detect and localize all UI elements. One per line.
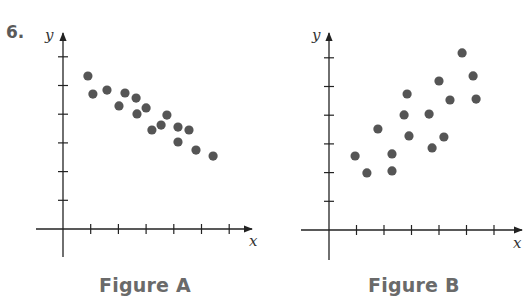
axis-ticks [324, 58, 494, 235]
data-point [400, 110, 409, 119]
data-point [173, 123, 182, 132]
x-axis-label: x [249, 232, 258, 250]
x-axis-label: x [513, 234, 522, 252]
data-point [373, 124, 382, 133]
data-point [387, 166, 396, 175]
y-axis-label: y [311, 26, 321, 44]
data-point [472, 95, 481, 104]
data-point [173, 137, 182, 146]
data-point [439, 132, 448, 141]
scatter-points [83, 71, 217, 160]
data-point [191, 146, 200, 155]
data-point [83, 71, 92, 80]
data-point [120, 88, 129, 97]
figures-canvas: y x y x [0, 0, 528, 302]
figure-b-caption: Figure B [368, 274, 460, 296]
data-point [425, 110, 434, 119]
data-point [445, 95, 454, 104]
figure-a-caption: Figure A [99, 274, 191, 296]
data-point [209, 152, 218, 161]
data-point [162, 111, 171, 120]
data-point [469, 71, 478, 80]
scatter-points [351, 48, 481, 177]
data-point [102, 86, 111, 95]
data-point [403, 89, 412, 98]
data-point [142, 103, 151, 112]
data-point [428, 143, 437, 152]
figure-a-plot: y x [36, 26, 258, 257]
data-point [147, 125, 156, 134]
data-point [351, 151, 360, 160]
data-point [184, 125, 193, 134]
axis-ticks [58, 57, 229, 234]
data-point [114, 101, 123, 110]
y-axis-label: y [44, 26, 54, 44]
figure-b-plot: y x [301, 26, 522, 260]
data-point [434, 76, 443, 85]
data-point [88, 90, 97, 99]
data-point [157, 121, 166, 130]
data-point [387, 149, 396, 158]
data-point [132, 94, 141, 103]
data-point [362, 168, 371, 177]
data-point [458, 48, 467, 57]
data-point [404, 131, 413, 140]
data-point [132, 109, 141, 118]
